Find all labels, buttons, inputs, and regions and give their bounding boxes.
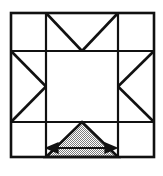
geometric-block-figure: Nine-patch block with shaded measured tr… [0, 0, 163, 176]
block-diagram-svg [0, 0, 163, 176]
